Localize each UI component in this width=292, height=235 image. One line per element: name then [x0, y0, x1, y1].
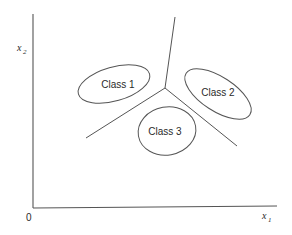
x2-axis-label: x 2: [16, 42, 27, 56]
x-axis: [33, 206, 277, 208]
svg-text:2: 2: [23, 48, 27, 56]
class-3-label: Class 3: [148, 126, 182, 137]
svg-text:x: x: [16, 42, 22, 53]
svg-text:x: x: [261, 210, 267, 221]
class-2-label: Class 2: [201, 87, 235, 98]
origin-label: 0: [26, 212, 32, 223]
class-1-label: Class 1: [101, 79, 135, 90]
decision-region-diagram: Class 1 Class 2 Class 3 0 x 1 x 2: [0, 0, 292, 235]
x1-axis-label: x 1: [261, 210, 272, 224]
boundary-1-2: [165, 17, 175, 88]
svg-text:1: 1: [268, 216, 272, 224]
